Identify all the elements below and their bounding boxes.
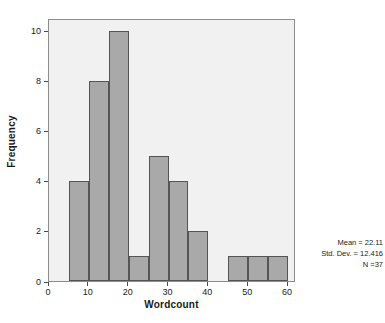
x-axis-tick-mark	[48, 282, 49, 286]
x-axis-tick-label: 30	[163, 288, 173, 297]
histogram-bar	[69, 181, 89, 281]
histogram-bar	[89, 81, 109, 281]
y-axis-tick-label: 8	[36, 77, 44, 86]
x-axis-tick: 0	[38, 282, 58, 297]
x-axis-tick-label: 40	[202, 288, 212, 297]
stat-mean: Mean = 22.11	[297, 238, 383, 249]
stat-std-dev: Std. Dev. = 12.416	[297, 249, 383, 260]
x-axis-tick: 20	[118, 282, 138, 297]
x-axis-tick-mark	[167, 282, 168, 286]
x-axis-title: Wordcount	[48, 299, 295, 310]
histogram-bar	[109, 31, 129, 281]
stat-n: N =37	[297, 260, 383, 271]
x-axis-tick: 40	[197, 282, 217, 297]
y-axis-tick-label: 10	[31, 27, 44, 36]
x-axis-tick-label: 20	[123, 288, 133, 297]
histogram-bar	[188, 231, 208, 281]
x-axis-tick: 60	[277, 282, 297, 297]
x-axis-tick-label: 50	[242, 288, 252, 297]
y-axis-title-label: Frequency	[6, 115, 17, 167]
x-axis-tick: 10	[78, 282, 98, 297]
x-axis-tick-mark	[127, 282, 128, 286]
y-axis-tick-label: 6	[36, 127, 44, 136]
x-axis-tick-label: 60	[282, 288, 292, 297]
x-axis-tick-mark	[287, 282, 288, 286]
x-axis-tick-mark	[247, 282, 248, 286]
y-axis-tick-label: 4	[36, 177, 44, 186]
x-axis-tick-mark	[207, 282, 208, 286]
histogram-bar	[228, 256, 248, 281]
x-axis-tick: 50	[237, 282, 257, 297]
histogram-bar	[248, 256, 268, 281]
histogram-bar	[149, 156, 169, 281]
y-axis-title: Frequency	[0, 0, 22, 283]
x-axis-tick-label: 0	[45, 288, 50, 297]
x-axis-tick-label: 10	[83, 288, 93, 297]
histogram-bar	[129, 256, 149, 281]
histogram-bar	[169, 181, 189, 281]
y-axis-ticks: 0246810	[22, 19, 48, 282]
bars-layer	[49, 20, 294, 281]
x-axis-tick: 30	[158, 282, 178, 297]
histogram-chart: Frequency 0246810 0102030405060 Wordcoun…	[0, 0, 385, 323]
plot-area	[48, 19, 295, 282]
statistics-annotation: Mean = 22.11 Std. Dev. = 12.416 N =37	[297, 238, 383, 271]
histogram-bar	[268, 256, 288, 281]
y-axis-tick-label: 2	[36, 227, 44, 236]
x-axis-tick-mark	[87, 282, 88, 286]
